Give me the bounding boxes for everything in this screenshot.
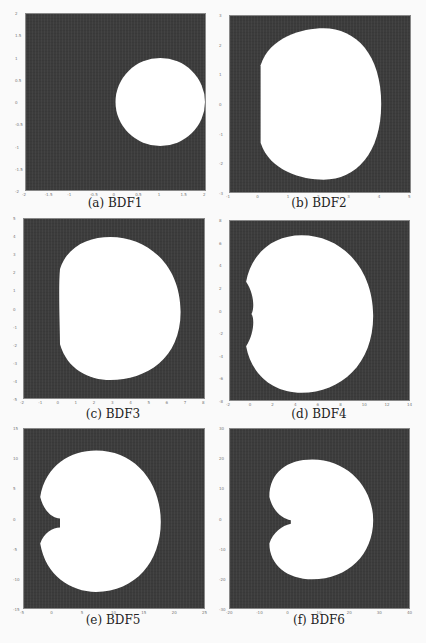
- x-tick-label: -2: [226, 402, 230, 407]
- y-tick-label: -1: [219, 132, 223, 137]
- x-tick-label: 2: [271, 402, 274, 407]
- x-tick-label: 4: [378, 194, 381, 199]
- y-tick-label: -2: [219, 161, 223, 166]
- x-tick-label: 0: [249, 402, 252, 407]
- stability-region-shape: [24, 429, 204, 608]
- x-tick-label: -1: [226, 194, 230, 199]
- stability-region-shape: [26, 14, 205, 190]
- plot-area-bdf5: [23, 428, 205, 609]
- y-tick-label: 5: [13, 216, 16, 221]
- y-tick-label: -8: [219, 399, 223, 404]
- y-tick-label: 0: [219, 517, 222, 522]
- x-tick-label: -5: [20, 610, 24, 615]
- y-tick-label: 0: [219, 309, 222, 314]
- stability-region-shape: [24, 219, 204, 398]
- x-tick-label: 4: [294, 402, 297, 407]
- plot-area-bdf6: [229, 428, 410, 609]
- caption-bdf4: (d) BDF4: [219, 407, 419, 421]
- y-tick-label: -2: [15, 189, 19, 194]
- x-tick-label: 3: [347, 194, 350, 199]
- y-tick-label: -1.5: [15, 167, 23, 172]
- x-tick-label: 2: [203, 192, 206, 197]
- y-tick-label: 6: [219, 241, 222, 246]
- x-tick-label: 0: [50, 610, 53, 615]
- y-tick-label: 4: [219, 263, 222, 268]
- y-tick-label: 2: [219, 286, 222, 291]
- x-tick-label: 10: [111, 610, 116, 615]
- y-tick-label: 5: [13, 486, 16, 491]
- caption-bdf3: (c) BDF3: [13, 407, 213, 421]
- x-tick-label: 0.5: [135, 192, 141, 197]
- x-tick-label: 10: [317, 610, 322, 615]
- x-tick-label: -20: [226, 610, 233, 615]
- caption-bdf6: (f) BDF6: [219, 613, 419, 627]
- y-tick-label: 3: [219, 13, 222, 18]
- y-tick-label: -3: [13, 361, 17, 366]
- x-tick-label: 20: [347, 610, 352, 615]
- y-tick-label: -15: [13, 607, 20, 612]
- y-tick-label: -1: [15, 145, 19, 150]
- x-tick-label: 7: [184, 400, 187, 405]
- y-tick-label: -0.5: [15, 122, 23, 127]
- x-tick-label: -1: [38, 400, 42, 405]
- x-tick-label: -10: [256, 610, 263, 615]
- x-tick-label: 1.5: [180, 192, 186, 197]
- y-tick-label: 8: [219, 218, 222, 223]
- y-tick-label: -2: [13, 343, 17, 348]
- y-tick-label: -30: [219, 607, 226, 612]
- x-tick-label: 3: [111, 400, 114, 405]
- stability-region-shape: [230, 429, 409, 608]
- y-tick-label: -4: [219, 354, 223, 359]
- plot-area-bdf1: [25, 13, 206, 191]
- y-tick-label: 0: [219, 102, 222, 107]
- y-tick-label: 10: [13, 456, 18, 461]
- y-tick-label: 1: [13, 288, 16, 293]
- x-tick-label: 14: [407, 402, 412, 407]
- y-tick-label: 1.5: [15, 33, 21, 38]
- x-tick-label: 40: [407, 610, 412, 615]
- x-tick-label: 5: [81, 610, 84, 615]
- y-tick-label: -20: [219, 577, 226, 582]
- y-tick-label: 0: [15, 100, 18, 105]
- y-tick-label: -1: [13, 325, 17, 330]
- x-tick-label: 2: [317, 194, 320, 199]
- y-tick-label: 2: [15, 11, 18, 16]
- x-tick-label: 30: [377, 610, 382, 615]
- x-tick-label: 12: [384, 402, 389, 407]
- y-tick-label: 10: [219, 486, 224, 491]
- x-tick-label: 4: [129, 400, 132, 405]
- y-tick-label: 15: [13, 426, 18, 431]
- plot-area-bdf4: [229, 220, 410, 401]
- x-tick-label: -2: [22, 192, 26, 197]
- y-tick-label: -5: [13, 397, 17, 402]
- x-tick-label: 15: [141, 610, 146, 615]
- plot-area-bdf3: [23, 218, 205, 399]
- x-tick-label: 1: [287, 194, 290, 199]
- stability-region-shape: [230, 221, 409, 400]
- y-tick-label: -10: [13, 577, 20, 582]
- caption-bdf1: (a) BDF1: [15, 196, 215, 210]
- y-tick-label: 30: [219, 426, 224, 431]
- x-tick-label: -2: [20, 400, 24, 405]
- x-tick-label: 5: [147, 400, 150, 405]
- x-tick-label: 10: [362, 402, 367, 407]
- x-tick-label: 8: [339, 402, 342, 407]
- x-tick-label: -0.5: [90, 192, 98, 197]
- x-tick-label: 0: [286, 610, 289, 615]
- stability-region-shape: [230, 16, 410, 192]
- y-tick-label: 2: [219, 43, 222, 48]
- y-tick-label: 1: [15, 56, 18, 61]
- x-tick-label: 0: [113, 192, 116, 197]
- x-tick-label: 2: [93, 400, 96, 405]
- x-tick-label: 0: [56, 400, 59, 405]
- y-tick-label: 0: [13, 517, 16, 522]
- y-tick-label: -10: [219, 547, 226, 552]
- plot-area-bdf2: [229, 15, 411, 193]
- y-tick-label: -3: [219, 191, 223, 196]
- x-tick-label: 8: [202, 400, 205, 405]
- y-tick-label: -6: [219, 376, 223, 381]
- y-tick-label: 3: [13, 252, 16, 257]
- x-tick-label: 6: [166, 400, 169, 405]
- x-tick-label: -1: [67, 192, 71, 197]
- y-tick-label: -2: [219, 331, 223, 336]
